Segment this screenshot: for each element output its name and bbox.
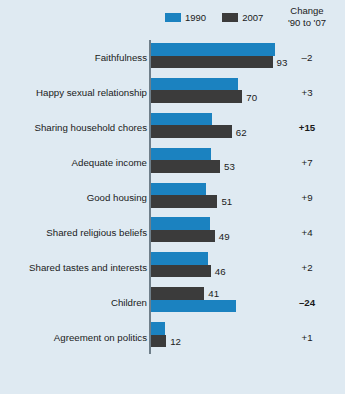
bar-1990 bbox=[151, 78, 239, 91]
change-value: +2 bbox=[272, 261, 342, 272]
legend-label-2007: 2007 bbox=[242, 13, 263, 23]
bar-2007: 41 bbox=[151, 287, 205, 300]
category-label: Shared tastes and interests bbox=[29, 261, 147, 272]
bar-1990 bbox=[151, 252, 209, 265]
category-label: Good housing bbox=[87, 192, 147, 203]
bar-1990 bbox=[151, 113, 213, 126]
category-label: Happy sexual relationship bbox=[36, 87, 147, 98]
change-header-line2: '90 to '07 bbox=[272, 17, 342, 29]
bar-value-label: 46 bbox=[215, 266, 226, 277]
bar-row: Faithfulness93–2 bbox=[0, 40, 345, 75]
bar-2007: 70 bbox=[151, 90, 243, 103]
legend-entry-1990: 1990 bbox=[165, 13, 206, 23]
change-value: +3 bbox=[272, 87, 342, 98]
bar-value-label: 70 bbox=[246, 91, 257, 102]
bar-row: Children41–24 bbox=[0, 284, 345, 319]
bar-2007: 51 bbox=[151, 195, 218, 208]
category-label: Children bbox=[111, 296, 147, 307]
change-value: +15 bbox=[272, 122, 342, 133]
bar-group: 49 bbox=[151, 217, 215, 242]
bar-group: 46 bbox=[151, 252, 211, 277]
bar-group: 41 bbox=[151, 287, 236, 312]
chart-legend: 1990 2007 bbox=[165, 13, 263, 23]
change-value: +1 bbox=[272, 331, 342, 342]
bar-2007: 93 bbox=[151, 56, 273, 69]
legend-swatch-2007-icon bbox=[222, 13, 238, 22]
change-value: –2 bbox=[272, 52, 342, 63]
legend-swatch-1990-icon bbox=[165, 13, 181, 22]
bar-2007: 53 bbox=[151, 160, 221, 173]
bar-2007: 46 bbox=[151, 265, 211, 278]
bar-group: 62 bbox=[151, 113, 232, 138]
bar-2007: 49 bbox=[151, 230, 215, 243]
bar-1990 bbox=[151, 217, 210, 230]
change-value: +9 bbox=[272, 192, 342, 203]
bar-1990 bbox=[151, 300, 236, 313]
bar-value-label: 49 bbox=[219, 231, 230, 242]
bar-row: Agreement on politics12+1 bbox=[0, 319, 345, 354]
bar-group: 12 bbox=[151, 322, 167, 347]
change-value: +4 bbox=[272, 226, 342, 237]
legend-entry-2007: 2007 bbox=[222, 13, 263, 23]
bar-row: Happy sexual relationship70+3 bbox=[0, 75, 345, 110]
bar-group: 53 bbox=[151, 148, 221, 173]
bar-1990 bbox=[151, 322, 165, 335]
bar-1990 bbox=[151, 43, 276, 56]
category-label: Faithfulness bbox=[95, 52, 147, 63]
change-column-header: Change '90 to '07 bbox=[272, 5, 342, 28]
bar-group: 51 bbox=[151, 183, 218, 208]
category-label: Shared religious beliefs bbox=[46, 226, 147, 237]
bar-2007: 62 bbox=[151, 125, 232, 138]
bar-value-label: 41 bbox=[208, 288, 219, 299]
bar-row: Good housing51+9 bbox=[0, 180, 345, 215]
category-label: Adequate income bbox=[72, 157, 147, 168]
bar-group: 93 bbox=[151, 43, 276, 68]
change-value: +7 bbox=[272, 157, 342, 168]
bar-value-label: 53 bbox=[224, 161, 235, 172]
bar-1990 bbox=[151, 183, 206, 196]
category-label: Sharing household chores bbox=[34, 122, 147, 133]
bar-value-label: 12 bbox=[170, 335, 181, 346]
bar-value-label: 62 bbox=[236, 126, 247, 137]
bar-rows: Faithfulness93–2Happy sexual relationshi… bbox=[0, 40, 345, 354]
bar-row: Shared religious beliefs49+4 bbox=[0, 214, 345, 249]
bar-1990 bbox=[151, 148, 211, 161]
bar-row: Adequate income53+7 bbox=[0, 145, 345, 180]
category-label: Agreement on politics bbox=[54, 331, 147, 342]
bar-value-label: 51 bbox=[221, 196, 232, 207]
legend-label-1990: 1990 bbox=[185, 13, 206, 23]
bar-row: Sharing household chores62+15 bbox=[0, 110, 345, 145]
bar-chart: 1990 2007 Change '90 to '07 Faithfulness… bbox=[0, 0, 345, 394]
bar-2007: 12 bbox=[151, 335, 167, 348]
bar-row: Shared tastes and interests46+2 bbox=[0, 249, 345, 284]
change-value: –24 bbox=[272, 296, 342, 307]
change-header-line1: Change bbox=[272, 5, 342, 17]
bar-group: 70 bbox=[151, 78, 243, 103]
